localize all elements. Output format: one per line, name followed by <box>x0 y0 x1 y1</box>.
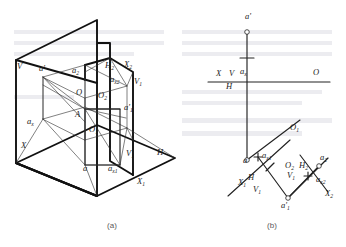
label-b-O1-subscript: 1 <box>296 127 299 133</box>
caption-b: (b) <box>267 221 277 230</box>
label-V1-top: V1 <box>134 76 142 87</box>
label-ax2-subscript: x2 <box>113 79 119 85</box>
label-b-V: V <box>229 68 236 78</box>
label-b-V1b-subscript: 1 <box>292 175 295 181</box>
label-b-O1: O1 <box>290 122 299 133</box>
label-b-H: H <box>225 81 233 91</box>
ray-corner-1 <box>43 119 85 165</box>
figure-canvas: Va'a2H2X2ax2V1OO2a'1AaxO1XV1aax1HX1 a'XV… <box>0 0 346 247</box>
label-b-ap1-subscript: 1 <box>287 205 290 211</box>
label-b-X1-subscript: 1 <box>243 182 246 188</box>
label-b-X2-subscript: 2 <box>330 193 333 199</box>
label-ap: a' <box>39 63 45 73</box>
label-ax-subscript: x <box>30 121 34 127</box>
label-b-a2-subscript: 2 <box>324 157 327 163</box>
label-O: O <box>76 87 82 97</box>
label-X2: X2 <box>123 59 132 70</box>
label-b-V1b: V1 <box>287 170 295 181</box>
label-b-X2: X2 <box>324 188 333 199</box>
label-ax2: ax2 <box>110 74 120 85</box>
label-b-ax1: ax1 <box>262 150 272 161</box>
label-b-H-2: H <box>247 172 255 182</box>
label-b-X1: X1 <box>237 177 246 188</box>
label-O2: O2 <box>98 90 107 101</box>
pictorial-label-group: Va'a2H2X2ax2V1OO2a'1AaxO1XV1aax1HX1 <box>17 59 164 187</box>
label-X: X <box>20 140 27 150</box>
label-b-ap: a' <box>245 11 251 21</box>
ray-corner-3 <box>85 109 120 165</box>
label-b-a: a <box>243 155 247 165</box>
label-A: A <box>74 109 81 119</box>
tick-ap1-projector <box>266 163 274 171</box>
label-b-V1-subscript: 1 <box>258 189 261 195</box>
label-ax: ax <box>27 116 34 127</box>
label-b-ax2-subscript: x2 <box>319 179 325 185</box>
background-bleed-through <box>14 30 332 136</box>
label-b-X: X <box>215 68 222 78</box>
pictorial-construction <box>16 20 175 196</box>
label-b-H2-subscript: 2 <box>305 165 308 171</box>
label-b-ax1-subscript: x1 <box>265 155 271 161</box>
label-b-ax2: ax2 <box>316 174 326 185</box>
ray-corner-2 <box>120 128 127 165</box>
label-O2-subscript: 2 <box>104 95 107 101</box>
label-b-ap1: a'1 <box>281 200 290 211</box>
label-b-ax: ax <box>240 66 247 77</box>
label-V1-bot-subscript: 1 <box>131 153 134 159</box>
label-b-a2: a2 <box>320 152 327 163</box>
label-X1: X1 <box>136 176 145 187</box>
label-ap1-subscript: 1 <box>130 107 133 113</box>
label-a: a <box>83 163 87 173</box>
caption-a: (a) <box>107 221 117 230</box>
label-H: H <box>156 147 164 157</box>
label-b-H2: H2 <box>298 160 308 171</box>
label-b-O: O <box>313 67 319 77</box>
point-ap <box>245 30 250 35</box>
label-b-V1: V1 <box>253 184 261 195</box>
projector-to-ap1 <box>258 157 288 198</box>
descriptive-geometry-figure: Va'a2H2X2ax2V1OO2a'1AaxO1XV1aax1HX1 a'XV… <box>0 0 346 247</box>
label-H2: H2 <box>104 60 114 71</box>
label-X2-subscript: 2 <box>129 64 132 70</box>
label-a2-subscript: 2 <box>76 70 79 76</box>
label-ax1-subscript: x1 <box>111 168 117 174</box>
label-b-ax-subscript: x <box>243 71 247 77</box>
label-H2-subscript: 2 <box>111 65 114 71</box>
label-ap1: a'1 <box>124 102 133 113</box>
caption-group: (a)(b) <box>107 221 277 230</box>
plane-h-outline <box>16 125 175 196</box>
ray-h-link <box>127 128 175 158</box>
mark-ax2 <box>304 172 312 180</box>
point-a2 <box>317 164 322 169</box>
label-O1-subscript: 1 <box>95 129 98 135</box>
projector-to-a2 <box>288 167 318 198</box>
label-V1-top-subscript: 1 <box>139 81 142 87</box>
label-X1-subscript: 1 <box>142 181 145 187</box>
